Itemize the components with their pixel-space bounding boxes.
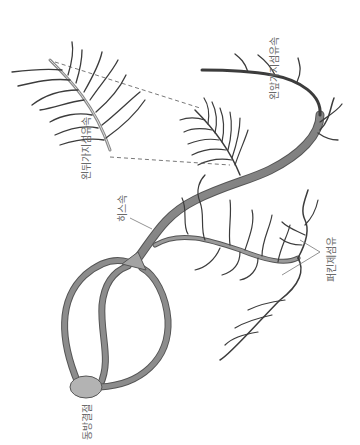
label-his-bundle: 히스속 [118,195,128,222]
diagram-canvas [0,0,360,445]
internodal-pathways [65,261,169,387]
label-sa-node: 동방결절 [83,404,93,440]
central-fern [180,98,248,175]
sa-node-shape [70,376,102,398]
conduction-diagram: 왼뒤가지섬유속 왼앞가지섬유속 히스속 퍼킨제섬유 동방결절 [0,0,360,445]
label-purkinje-fibers: 퍼킨제섬유 [327,237,337,282]
label-left-anterior-fascicle: 왼앞가지섬유속 [270,37,280,100]
enlarged-fern [12,42,145,150]
label-left-posterior-fascicle: 왼뒤가지섬유속 [82,117,92,180]
